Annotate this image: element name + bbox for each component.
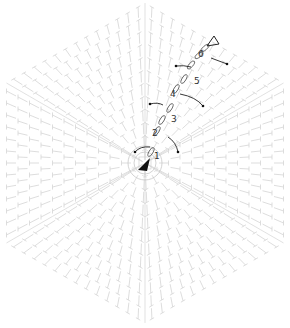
row-label-5: 5 [194,76,200,86]
row-label-1: 1 [154,151,160,161]
row-label-2: 2 [152,128,158,138]
crochet-hexagon-chart: 1 2 3 4 5 6 [0,0,290,328]
row-label-6: 6 [198,49,204,59]
row-label-3: 3 [171,114,177,124]
row-label-4: 4 [170,89,176,99]
